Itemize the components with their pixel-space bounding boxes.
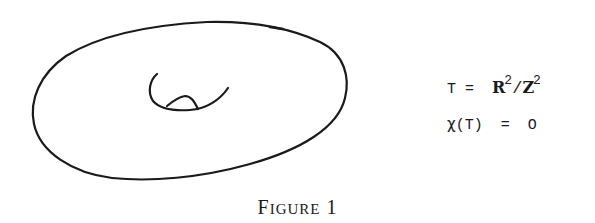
torus-outline-mark (270, 27, 283, 29)
quotient-slash: / (512, 79, 522, 98)
equals-sign: = (501, 117, 510, 134)
caption-number: 1 (326, 196, 337, 218)
integers-symbol: Z (522, 78, 533, 97)
torus-inner-bump (167, 96, 198, 109)
euler-characteristic-equation: χ(T) = O (447, 117, 537, 133)
reals-symbol: R (492, 78, 504, 97)
torus-outer-outline (33, 22, 347, 180)
equals-sign: = (465, 81, 474, 98)
paren-close: ) (474, 117, 483, 134)
torus-symbol: T (447, 81, 456, 98)
figure-caption: FIGURE 1 (0, 196, 595, 219)
euler-value: O (528, 117, 537, 134)
caption-word-rest: IGURE (270, 201, 321, 217)
torus-inner-arc (150, 74, 228, 110)
caption-initial: F (258, 196, 270, 218)
torus-quotient-equation: T = R2/Z2 (447, 80, 541, 97)
torus-drawing (0, 0, 595, 223)
chi-symbol: χ (447, 115, 456, 133)
torus-arg: T (465, 117, 474, 134)
integers-exponent: 2 (533, 73, 541, 88)
reals-exponent: 2 (504, 73, 512, 88)
paren-open: ( (456, 117, 465, 134)
